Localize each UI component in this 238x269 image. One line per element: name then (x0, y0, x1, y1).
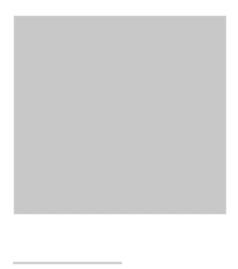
silt-panel-fill (14, 16, 226, 214)
silt-panel (14, 16, 226, 214)
figure-canvas (0, 0, 238, 269)
permafrost-cross-section-figure (0, 0, 238, 269)
